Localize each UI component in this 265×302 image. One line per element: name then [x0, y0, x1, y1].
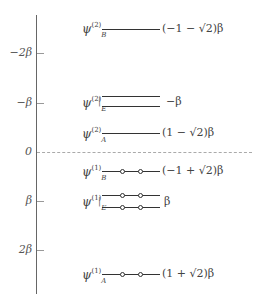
electron-dot-icon — [138, 193, 143, 198]
zero-energy-dashed-line — [37, 152, 252, 153]
energy-psi-A2: (1 − √2)β — [162, 127, 214, 139]
psi-symbol: ψ — [82, 22, 91, 36]
electron-dot-icon — [120, 205, 125, 210]
subscript: B — [101, 31, 106, 39]
level-line-psi-A1 — [102, 274, 160, 275]
level-line-psi-E2b — [102, 106, 160, 107]
psi-symbol: ψ — [82, 165, 91, 179]
psi-symbol: ψ — [82, 195, 91, 209]
level-line-psi-B2 — [102, 29, 160, 30]
label-psi-B2: ψ(2)B — [82, 20, 107, 40]
tick-label-minus-2beta: −2β — [2, 47, 32, 59]
psi-symbol: ψ — [82, 96, 91, 110]
superscript: (2) — [91, 126, 101, 134]
electron-dot-icon — [138, 205, 143, 210]
level-line-psi-A2 — [102, 133, 160, 134]
subscript: A — [101, 136, 106, 144]
tick-label-beta: β — [2, 195, 32, 207]
superscript: (2) — [91, 21, 101, 29]
label-psi-E2: ψ(2)E — [82, 94, 106, 114]
tick-minus-2beta — [37, 53, 44, 54]
superscript: (1) — [91, 267, 101, 275]
degeneracy-brace-E2: | — [98, 90, 101, 112]
degeneracy-brace-E1: | — [98, 190, 101, 212]
subscript: A — [101, 277, 106, 285]
energy-psi-B2: (−1 − √2)β — [162, 23, 223, 35]
tick-label-zero: 0 — [2, 146, 32, 158]
subscript: E — [101, 204, 106, 212]
psi-symbol: ψ — [82, 127, 91, 141]
electron-dot-icon — [120, 193, 125, 198]
label-psi-A1: ψ(1)A — [82, 266, 106, 286]
energy-psi-E1: β — [164, 196, 170, 208]
energy-psi-B1: (−1 + √2)β — [162, 165, 223, 177]
subscript: B — [101, 174, 106, 182]
energy-psi-E2: −β — [166, 96, 182, 108]
level-line-psi-E1b — [102, 207, 160, 208]
energy-axis — [36, 15, 37, 294]
electron-dot-icon — [120, 272, 125, 277]
tick-label-2beta: 2β — [2, 244, 32, 256]
tick-minus-beta — [37, 103, 44, 104]
level-line-psi-B1 — [102, 171, 160, 172]
label-psi-A2: ψ(2)A — [82, 125, 106, 145]
level-line-psi-E1a — [102, 195, 160, 196]
level-line-psi-E2a — [102, 96, 160, 97]
superscript: (1) — [91, 164, 101, 172]
electron-dot-icon — [138, 169, 143, 174]
label-psi-B1: ψ(1)B — [82, 163, 107, 183]
psi-symbol: ψ — [82, 268, 91, 282]
electron-dot-icon — [120, 169, 125, 174]
energy-psi-A1: (1 + √2)β — [162, 268, 214, 280]
tick-2beta — [37, 250, 44, 251]
tick-label-minus-beta: −β — [2, 97, 32, 109]
tick-beta — [37, 201, 44, 202]
label-psi-E1: ψ(1)E — [82, 193, 106, 213]
electron-dot-icon — [138, 272, 143, 277]
